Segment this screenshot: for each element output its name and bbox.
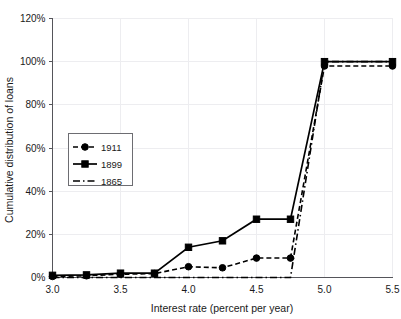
legend-label-1899: 1899 (101, 159, 122, 170)
legend-marker-1899 (82, 161, 88, 167)
x-axis-title: Interest rate (percent per year) (151, 302, 293, 314)
data-point-1899 (185, 244, 191, 250)
x-tick-label: 4.0 (182, 284, 196, 295)
x-tick-label: 5.5 (386, 284, 400, 295)
data-point-1899 (117, 270, 123, 276)
y-tick-label: 100% (20, 56, 46, 67)
x-tick-label: 4.5 (250, 284, 264, 295)
data-point-1911 (253, 255, 260, 262)
y-tick-label: 80% (25, 99, 45, 110)
chart-container: 0%20%40%60%80%100%120% 3.03.54.04.55.05.… (0, 0, 401, 319)
legend-label-1865: 1865 (101, 176, 122, 187)
cumulative-distribution-chart: 0%20%40%60%80%100%120% 3.03.54.04.55.05.… (0, 0, 401, 319)
data-point-1899 (219, 238, 225, 244)
data-point-1899 (151, 270, 157, 276)
data-point-1911 (185, 263, 192, 270)
y-tick-label: 40% (25, 186, 45, 197)
y-tick-label: 120% (20, 13, 46, 24)
data-point-1911 (219, 264, 226, 271)
y-tick-label: 20% (25, 229, 45, 240)
chart-background (0, 0, 401, 319)
x-tick-label: 3.0 (46, 284, 60, 295)
y-tick-label: 0% (31, 272, 46, 283)
legend-label-1911: 1911 (101, 142, 121, 153)
x-tick-label: 5.0 (318, 284, 332, 295)
legend-marker-1911 (82, 144, 89, 151)
data-point-1899 (253, 216, 259, 222)
data-point-1899 (287, 216, 293, 222)
y-tick-label: 60% (25, 143, 45, 154)
x-tick-label: 3.5 (114, 284, 128, 295)
y-axis-title: Cumulative distribution of loans (3, 77, 15, 223)
chart-legend[interactable]: 191118991865 (69, 134, 133, 187)
